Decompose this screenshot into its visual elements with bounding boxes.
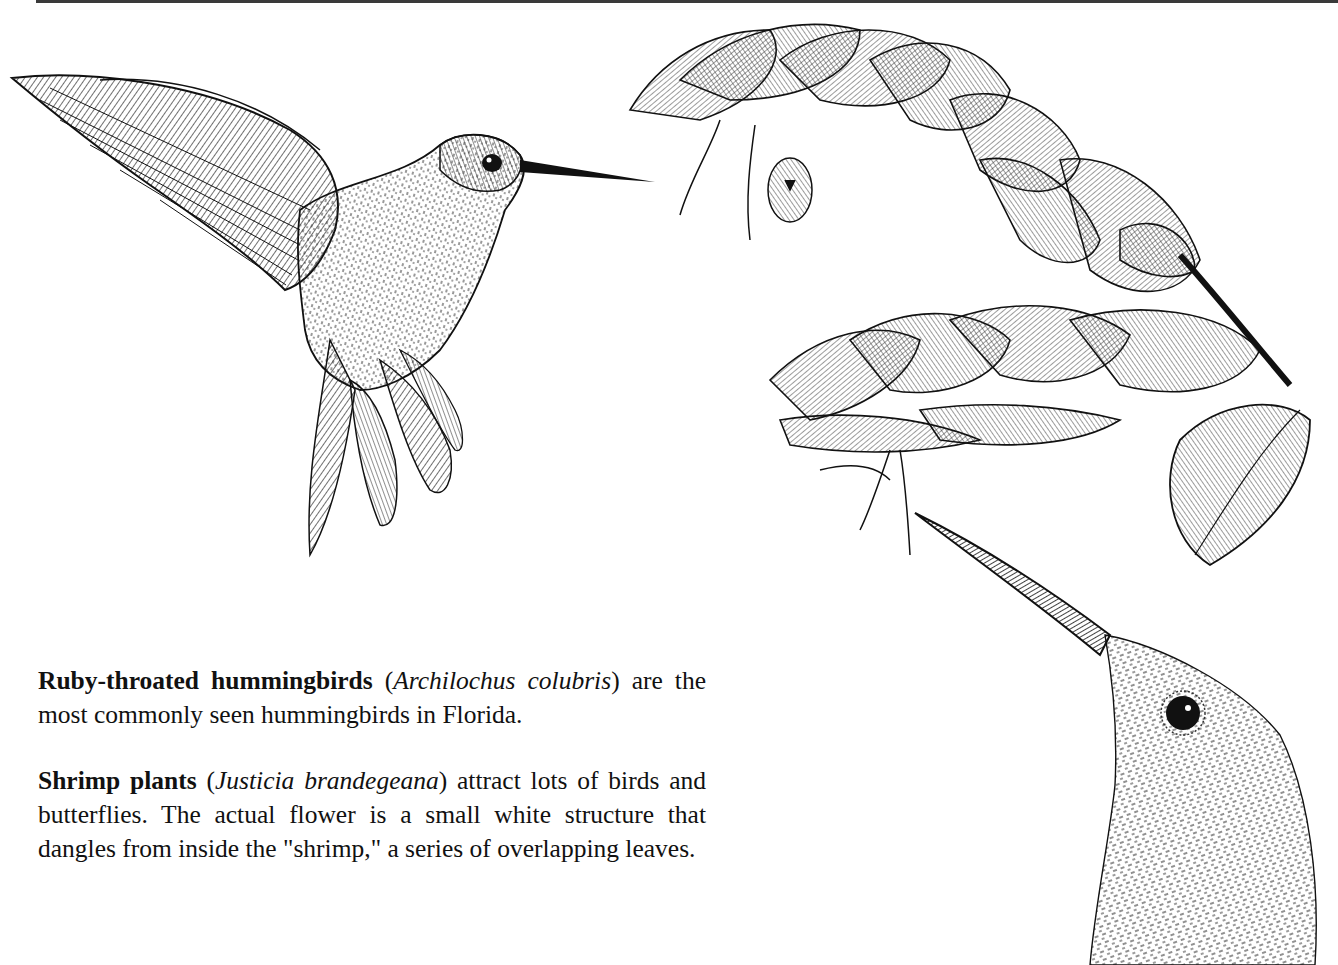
caption-1-paren: ( [373,666,394,695]
shrimp-plant-illustration [620,0,1338,580]
caption-ruby-throated-hummingbird: Ruby-throated hummingbirds (Archilochus … [38,664,706,732]
caption-2-bold: Shrimp plants [38,766,197,795]
caption-1-bold: Ruby-throated hummingbirds [38,666,373,695]
caption-shrimp-plant: Shrimp plants (Justicia brandegeana) att… [38,764,706,866]
hummingbird-illustration [0,60,680,560]
caption-2-paren: ( [197,766,215,795]
caption-2-scientific-name: Justicia brandegeana [215,766,439,795]
hummingbird-head-illustration [900,505,1338,965]
caption-1-scientific-name: Archilochus colubris [393,666,611,695]
